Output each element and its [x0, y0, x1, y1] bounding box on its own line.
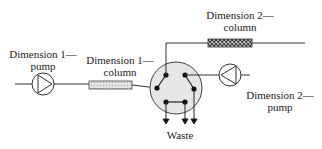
- dim1-pump-label: Dimension 1— pump: [4, 48, 82, 72]
- dim1-column-label: Dimension 1— column: [80, 54, 160, 78]
- dim2-pump-icon: [219, 64, 241, 86]
- dim2-column-label-line1: Dimension 2—: [200, 9, 280, 21]
- dim2-column-label: Dimension 2— column: [200, 9, 280, 33]
- dim2-pump-label-line2: pump: [240, 101, 320, 113]
- dim2-pump-label-line1: Dimension 2—: [240, 89, 320, 101]
- dim1-pump-label-line2: pump: [4, 60, 82, 72]
- dim1-pump-label-line1: Dimension 1—: [4, 48, 82, 60]
- waste-label: Waste: [155, 129, 205, 141]
- dim2-column-icon: [208, 39, 252, 47]
- dim1-column-icon: [89, 81, 132, 89]
- dim1-column-label-line2: column: [80, 66, 160, 78]
- dim2-column-label-line2: column: [200, 21, 280, 33]
- dim1-column-label-line1: Dimension 1—: [80, 54, 160, 66]
- dim1-pump-icon: [32, 73, 54, 95]
- dim2-pump-label: Dimension 2— pump: [240, 89, 320, 113]
